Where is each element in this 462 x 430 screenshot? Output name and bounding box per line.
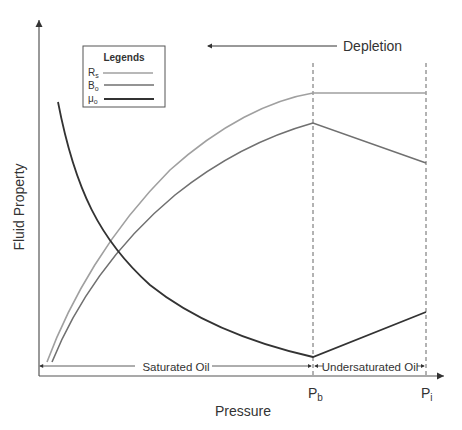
saturated-oil-label: Saturated Oil bbox=[142, 361, 209, 373]
bo-curve bbox=[52, 123, 426, 362]
legend: Legends Rs Bo μo bbox=[83, 46, 165, 107]
undersaturated-oil-label: Undersaturated Oil bbox=[322, 361, 419, 373]
depletion-label: Depletion bbox=[343, 38, 402, 54]
fluid-property-chart: Depletion Saturated Oil Undersaturated O… bbox=[0, 0, 462, 430]
pb-tick-label: Pb bbox=[308, 385, 323, 403]
pi-tick-label: Pi bbox=[421, 385, 433, 403]
x-axis-label: Pressure bbox=[215, 403, 271, 419]
y-axis-label: Fluid Property bbox=[11, 163, 27, 250]
rs-curve bbox=[47, 93, 426, 362]
mu-curve bbox=[58, 102, 426, 357]
legend-title: Legends bbox=[103, 52, 145, 63]
